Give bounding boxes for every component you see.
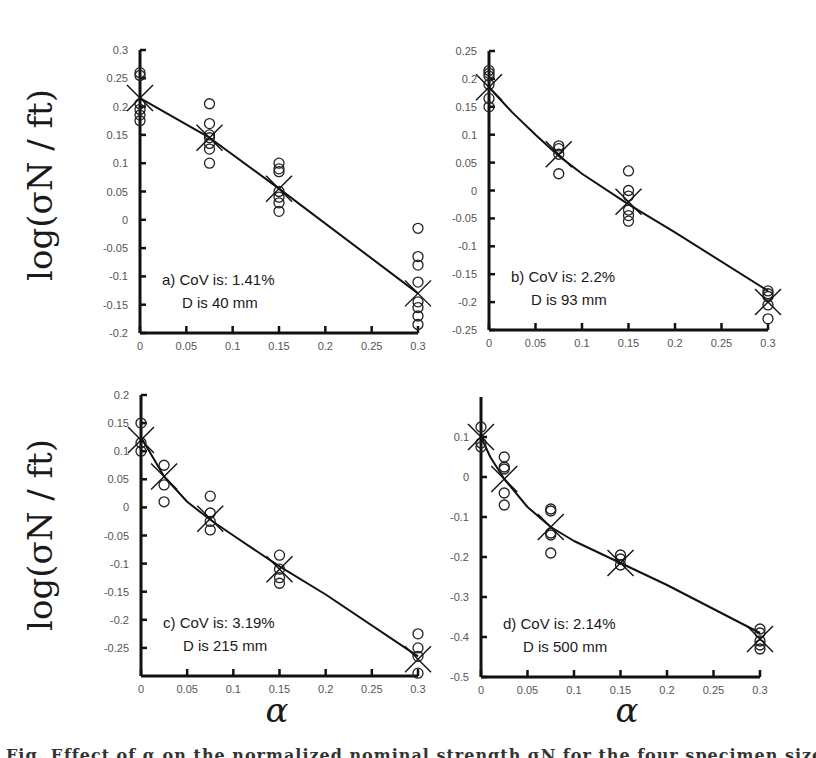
y-tick-label: -0.1 bbox=[458, 240, 477, 252]
x-tick-label: 0.25 bbox=[711, 337, 732, 349]
x-tick-label: 0.2 bbox=[659, 684, 674, 696]
x-tick-label: 0.25 bbox=[703, 684, 724, 696]
x-tick-label: 0 bbox=[486, 337, 492, 349]
y-tick-label: 0.2 bbox=[114, 389, 129, 401]
data-point-circle bbox=[274, 192, 284, 202]
data-point-circle bbox=[763, 314, 773, 324]
y-tick-label: 0.15 bbox=[456, 101, 477, 113]
y-tick-label: -0.3 bbox=[450, 591, 469, 603]
y-tick-label: 0.1 bbox=[454, 431, 469, 443]
panel-annotation-cov: c) CoV is: 3.19% bbox=[163, 614, 275, 631]
data-point-circle bbox=[413, 277, 423, 287]
panel-annotation-size: D is 40 mm bbox=[182, 294, 258, 311]
y-tick-label: 0.3 bbox=[113, 44, 128, 56]
panel-annotation-size: D is 500 mm bbox=[523, 638, 607, 655]
panel-annotation-size: D is 215 mm bbox=[183, 637, 267, 654]
data-point-circle bbox=[205, 99, 215, 109]
x-tick-label: 0.25 bbox=[361, 683, 382, 695]
y-tick-label: -0.25 bbox=[104, 642, 129, 654]
y-tick-label: -0.2 bbox=[110, 614, 129, 626]
x-tick-label: 0.05 bbox=[517, 684, 538, 696]
y-tick-label: 0.15 bbox=[107, 129, 128, 141]
data-point-circle bbox=[499, 488, 509, 498]
mean-cross-marker bbox=[538, 514, 564, 540]
mean-cross-marker bbox=[755, 289, 781, 315]
fit-curve bbox=[481, 437, 760, 633]
x-axis-label-left: α bbox=[266, 690, 289, 730]
x-tick-label: 0.05 bbox=[525, 337, 546, 349]
panel-d: -0.5-0.4-0.3-0.2-0.100.100.050.10.150.20… bbox=[450, 397, 773, 696]
y-axis-label-bottom: log(σN / ft) bbox=[20, 439, 60, 631]
x-tick-label: 0.1 bbox=[566, 684, 581, 696]
panel-c: -0.25-0.2-0.15-0.1-0.0500.050.10.150.200… bbox=[104, 389, 431, 695]
y-axis-label-top: log(σN / ft) bbox=[20, 89, 60, 281]
data-point-circle bbox=[159, 497, 169, 507]
y-tick-label: 0.1 bbox=[113, 157, 128, 169]
data-point-circle bbox=[205, 119, 215, 129]
y-tick-label: -0.2 bbox=[109, 327, 128, 339]
x-tick-label: 0 bbox=[138, 683, 144, 695]
data-point-circle bbox=[554, 169, 564, 179]
y-tick-label: 0 bbox=[122, 214, 128, 226]
y-tick-label: -0.05 bbox=[104, 530, 129, 542]
x-tick-label: 0.1 bbox=[225, 340, 240, 352]
x-tick-label: 0.05 bbox=[176, 683, 197, 695]
figure-2x2-scatter-panels: -0.2-0.15-0.1-0.0500.050.10.150.20.250.3… bbox=[0, 0, 816, 758]
y-tick-label: -0.15 bbox=[104, 586, 129, 598]
panel-annotation-size: D is 93 mm bbox=[531, 291, 607, 308]
x-tick-label: 0.15 bbox=[618, 337, 639, 349]
y-tick-label: -0.2 bbox=[450, 551, 469, 563]
data-point-circle bbox=[413, 297, 423, 307]
data-point-circle bbox=[499, 452, 509, 462]
x-tick-label: 0.2 bbox=[667, 337, 682, 349]
y-axis-label-text-top: log(σN / ft) bbox=[20, 89, 60, 281]
y-tick-label: -0.1 bbox=[110, 558, 129, 570]
data-point-circle bbox=[624, 166, 634, 176]
y-tick-label: -0.25 bbox=[452, 324, 477, 336]
y-tick-label: 0.25 bbox=[107, 72, 128, 84]
x-tick-label: 0.05 bbox=[176, 340, 197, 352]
x-tick-label: 0.25 bbox=[361, 340, 382, 352]
y-tick-label: -0.1 bbox=[450, 511, 469, 523]
mean-cross-marker bbox=[197, 506, 223, 532]
y-tick-label: 0.05 bbox=[456, 157, 477, 169]
mean-cross-marker bbox=[546, 141, 572, 167]
y-tick-label: -0.4 bbox=[450, 631, 469, 643]
x-tick-label: 0.15 bbox=[268, 340, 289, 352]
data-point-circle bbox=[159, 460, 169, 470]
panel-annotation-cov: d) CoV is: 2.14% bbox=[503, 615, 616, 632]
y-tick-label: 0 bbox=[471, 185, 477, 197]
y-tick-label: -0.05 bbox=[103, 242, 128, 254]
y-tick-label: 0 bbox=[463, 471, 469, 483]
y-tick-label: -0.1 bbox=[109, 270, 128, 282]
x-tick-label: 0.3 bbox=[410, 683, 425, 695]
mean-cross-marker bbox=[747, 626, 773, 652]
y-tick-label: 0.1 bbox=[114, 445, 129, 457]
y-tick-label: 0.05 bbox=[108, 473, 129, 485]
y-tick-label: -0.05 bbox=[452, 212, 477, 224]
x-tick-label: 0.1 bbox=[226, 683, 241, 695]
data-point-circle bbox=[205, 158, 215, 168]
x-tick-label: 0 bbox=[137, 340, 143, 352]
panel-a: -0.2-0.15-0.1-0.0500.050.10.150.20.250.3… bbox=[103, 44, 431, 352]
panel-annotation-cov: a) CoV is: 1.41% bbox=[162, 271, 275, 288]
panel-annotation-cov: b) CoV is: 2.2% bbox=[511, 268, 615, 285]
x-tick-label: 0.3 bbox=[752, 684, 767, 696]
data-point-circle bbox=[159, 480, 169, 490]
fit-curve bbox=[489, 87, 768, 291]
data-point-circle bbox=[413, 629, 423, 639]
data-point-circle bbox=[205, 144, 215, 154]
figure-caption-clipped: Fig. Effect of α on the normalized nomin… bbox=[0, 748, 816, 758]
y-tick-label: 0.15 bbox=[108, 417, 129, 429]
data-point-circle bbox=[275, 550, 285, 560]
data-point-circle bbox=[413, 223, 423, 233]
x-tick-label: 0.3 bbox=[410, 340, 425, 352]
y-tick-label: 0 bbox=[123, 501, 129, 513]
x-tick-label: 0.2 bbox=[318, 340, 333, 352]
x-tick-label: 0 bbox=[478, 684, 484, 696]
y-tick-label: -0.15 bbox=[452, 268, 477, 280]
fit-curve bbox=[140, 98, 418, 293]
data-point-circle bbox=[546, 548, 556, 558]
x-tick-label: 0.3 bbox=[760, 337, 775, 349]
x-tick-label: 0.1 bbox=[574, 337, 589, 349]
